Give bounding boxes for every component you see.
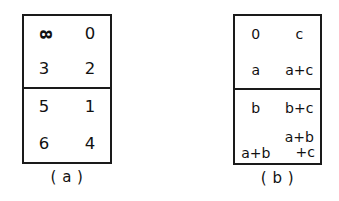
- grid-b-lower-half: b b+c a+b a+b +c: [235, 90, 320, 164]
- grid-a-lower-half: 5 1 6 4: [24, 89, 110, 162]
- grid-b-row-1: a a+c: [235, 52, 320, 88]
- grid-b-row-2: b b+c: [235, 90, 320, 127]
- cell-b-r1c1: a+c: [279, 63, 321, 77]
- cell-b-r1c0: a: [235, 63, 279, 77]
- cell-b-r2c0: b: [235, 101, 279, 115]
- cell-b-r0c0: 0: [235, 27, 279, 41]
- panel-b: 0 c a a+c b b+c a+b a+b +c: [233, 14, 322, 186]
- infinity-icon: 8: [37, 29, 52, 39]
- cell-a-r3c1: 4: [68, 136, 110, 153]
- grid-a-row-1: 3 2: [24, 52, 110, 88]
- grid-box-a: 8 0 3 2 5 1 6 4: [22, 14, 112, 164]
- grid-a-row-3: 6 4: [24, 126, 110, 163]
- grid-b-row-3: a+b a+b +c: [235, 126, 320, 163]
- cell-b-r0c1: c: [279, 27, 321, 41]
- cell-b-r3c1: a+b +c: [279, 130, 321, 160]
- grid-b-upper-half: 0 c a a+c: [235, 16, 320, 90]
- cell-b-r2c1: b+c: [279, 101, 321, 115]
- figure-root: 8 0 3 2 5 1 6 4 ( a ): [0, 0, 339, 201]
- panel-a: 8 0 3 2 5 1 6 4 ( a ): [22, 14, 112, 185]
- cell-a-r3c0: 6: [24, 136, 68, 153]
- grid-a-row-2: 5 1: [24, 89, 110, 126]
- cell-a-r1c1: 2: [68, 61, 110, 78]
- cell-a-r2c1: 1: [68, 99, 110, 116]
- grid-b-row-0: 0 c: [235, 16, 320, 52]
- grid-a-upper-half: 8 0 3 2: [24, 16, 110, 89]
- cell-b-r3c0: a+b: [235, 146, 279, 163]
- cell-a-r0c1: 0: [68, 26, 110, 43]
- cell-a-r2c0: 5: [24, 99, 68, 116]
- caption-b: ( b ): [233, 171, 322, 186]
- grid-box-b: 0 c a a+c b b+c a+b a+b +c: [233, 14, 322, 165]
- cell-b-r3c1-line1: a+b: [279, 130, 321, 145]
- cell-b-r3c1-line2: +c: [279, 145, 321, 160]
- cell-a-r1c0: 3: [24, 61, 68, 78]
- cell-a-r0c0: 8: [24, 26, 68, 43]
- caption-a: ( a ): [22, 170, 112, 185]
- grid-a-row-0: 8 0: [24, 16, 110, 52]
